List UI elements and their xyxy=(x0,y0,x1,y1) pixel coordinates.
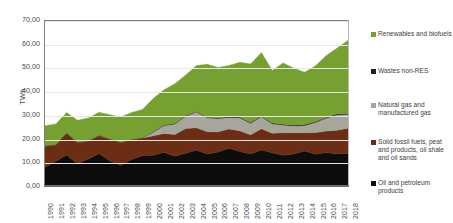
x-axis-tick-label: 2005 xyxy=(211,203,218,219)
y-axis-tick-label: 30,00 xyxy=(4,111,40,119)
gridline xyxy=(45,68,348,69)
x-axis-tick-label: 2002 xyxy=(178,203,185,219)
x-axis-tick-label: 1990 xyxy=(47,203,54,219)
y-axis-tick-label: 0,00 xyxy=(4,182,40,190)
x-axis-tick-label: 1992 xyxy=(69,203,76,219)
x-axis-tick-label: 2012 xyxy=(287,203,294,219)
x-axis-tick-label: 2009 xyxy=(254,203,261,219)
x-axis-tick-label: 1991 xyxy=(58,203,65,219)
x-axis-tick-label: 2014 xyxy=(309,203,316,219)
gridline xyxy=(45,45,348,46)
gridline xyxy=(45,92,348,93)
legend-item[interactable]: Wastes non-RES xyxy=(371,67,453,75)
x-axis-tick-label: 2000 xyxy=(156,203,163,219)
x-axis-tick-label: 1996 xyxy=(113,203,120,219)
y-axis-tick-label: 20,00 xyxy=(4,135,40,143)
legend-item[interactable]: Renewables and biofuels xyxy=(371,30,453,38)
y-axis-tick-label: 70,00 xyxy=(4,16,40,24)
x-axis-tick-label: 2018 xyxy=(352,203,359,219)
gridline xyxy=(45,163,348,164)
y-axis-tick-label: 50,00 xyxy=(4,63,40,71)
gridline xyxy=(45,21,348,22)
x-axis-tick-label: 2017 xyxy=(341,203,348,219)
area-series-svg xyxy=(45,21,348,186)
x-axis-tick-label: 1997 xyxy=(123,203,130,219)
legend-item[interactable]: Oil and petroleum products xyxy=(371,179,453,195)
legend-swatch-icon xyxy=(371,32,376,37)
x-axis-tick-label: 2015 xyxy=(320,203,327,219)
x-axis-tick-label: 2004 xyxy=(200,203,207,219)
x-axis-tick-label: 2008 xyxy=(243,203,250,219)
y-axis-tick-labels: 0,0010,0020,0030,0040,0050,0060,0070,00 xyxy=(0,0,40,223)
x-axis-tick-label: 1999 xyxy=(145,203,152,219)
legend-swatch-icon xyxy=(371,103,376,108)
x-axis-tick-label: 2007 xyxy=(232,203,239,219)
legend-item-label: Oil and petroleum products xyxy=(378,179,453,195)
y-axis-tick-label: 60,00 xyxy=(4,40,40,48)
legend-item-label: Natural gas and manufactured gas xyxy=(378,101,453,117)
x-axis-tick-label: 1994 xyxy=(91,203,98,219)
x-axis-tick-label: 2011 xyxy=(276,204,283,219)
legend-swatch-icon xyxy=(371,140,376,145)
x-axis-tick-label: 2010 xyxy=(265,203,272,219)
x-axis-tick-label: 2001 xyxy=(167,203,174,219)
legend-item[interactable]: Solid fossil fuels, peat and products, o… xyxy=(371,138,453,163)
x-axis-tick-label: 2013 xyxy=(298,203,305,219)
legend-swatch-icon xyxy=(371,181,376,186)
gridline xyxy=(45,140,348,141)
legend-item-label: Renewables and biofuels xyxy=(378,30,452,38)
plot-area xyxy=(44,20,349,186)
chart-legend: Renewables and biofuelsWastes non-RESNat… xyxy=(371,22,453,212)
legend-item-label: Solid fossil fuels, peat and products, o… xyxy=(378,138,453,163)
legend-item-label: Wastes non-RES xyxy=(378,67,428,75)
y-axis-tick-label: 40,00 xyxy=(4,87,40,95)
x-axis-tick-label: 1998 xyxy=(134,203,141,219)
x-axis-tick-label: 2006 xyxy=(221,203,228,219)
x-axis-tick-label: 1995 xyxy=(102,203,109,219)
x-axis-tick-labels: 1990199119921993199419951996199719981999… xyxy=(44,187,349,223)
legend-item[interactable]: Natural gas and manufactured gas xyxy=(371,101,453,117)
stacked-area-chart: TWh 0,0010,0020,0030,0040,0050,0060,0070… xyxy=(0,0,453,223)
y-axis-tick-label: 10,00 xyxy=(4,158,40,166)
x-axis-tick-label: 1993 xyxy=(80,203,87,219)
gridline xyxy=(45,116,348,117)
x-axis-tick-label: 2003 xyxy=(189,203,196,219)
legend-swatch-icon xyxy=(371,69,376,74)
x-axis-tick-label: 2016 xyxy=(330,203,337,219)
